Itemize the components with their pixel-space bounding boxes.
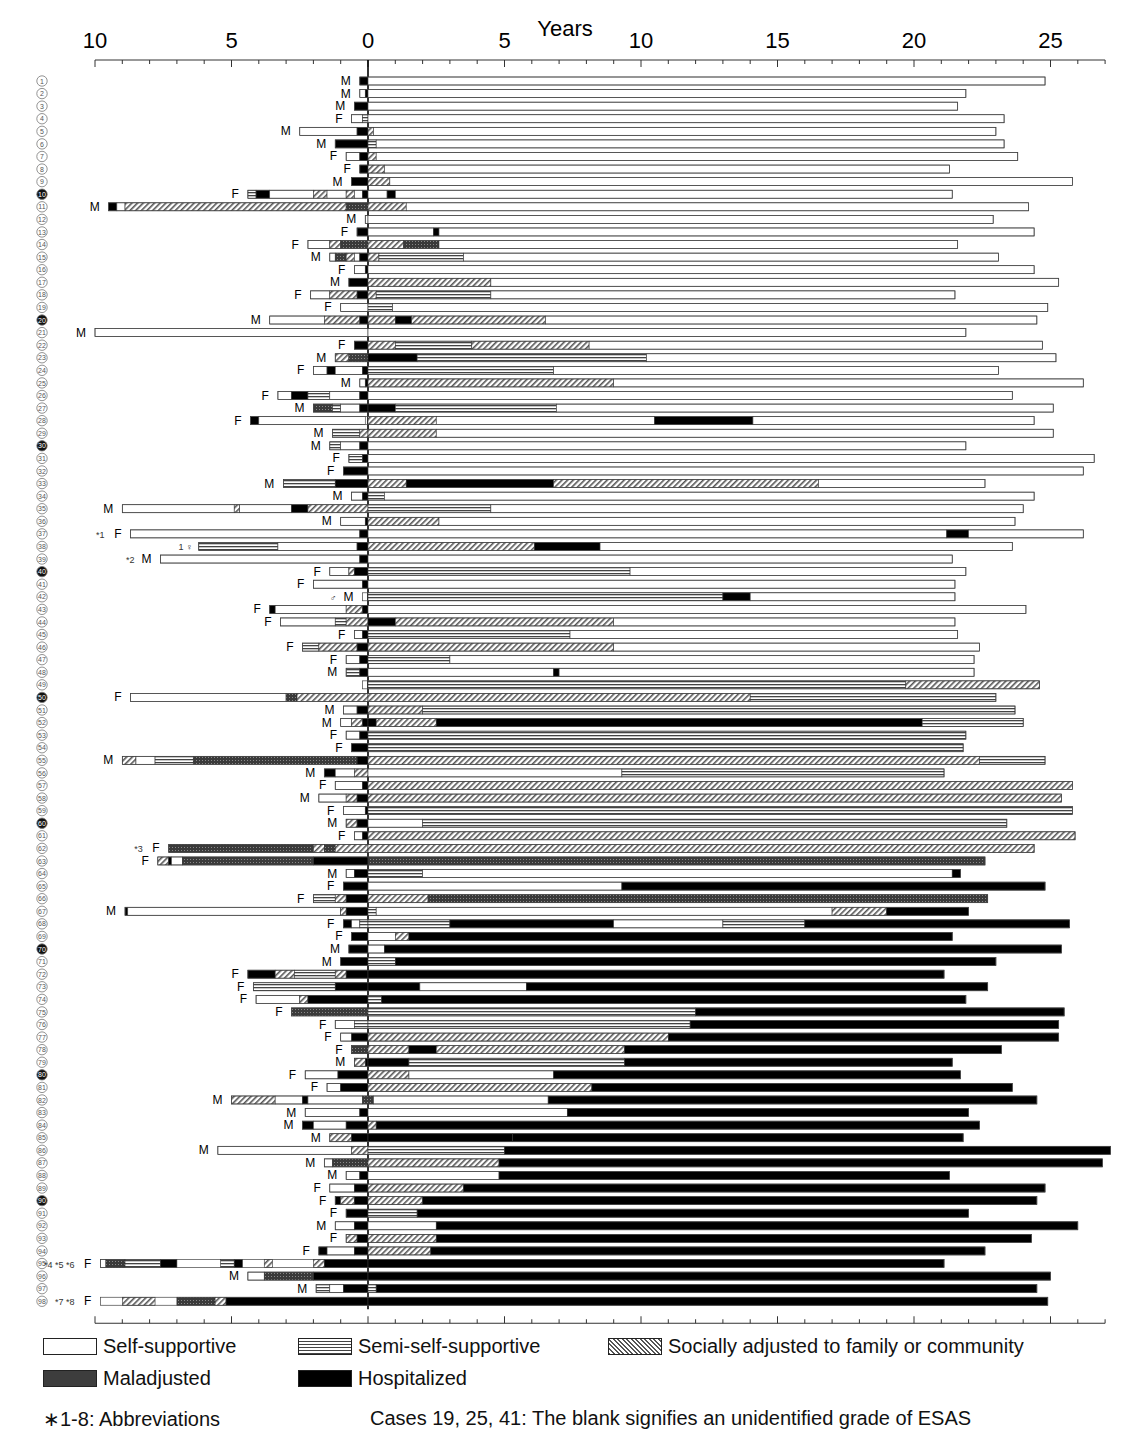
segment-S: [368, 454, 1094, 462]
case-row: 26F: [37, 389, 1012, 403]
segment-A: [308, 505, 368, 513]
segment-H: [554, 668, 559, 676]
case-number: 6: [40, 141, 44, 148]
segment-H: [360, 668, 368, 676]
sex-label: F: [330, 1231, 337, 1245]
case-row: 16F: [37, 263, 1034, 277]
segment-S: [122, 505, 234, 513]
case-row: 79M: [37, 1055, 952, 1069]
case-number: 41: [38, 581, 46, 588]
segment-S: [305, 1109, 360, 1117]
segment-A: [368, 895, 428, 903]
segment-H: [409, 932, 952, 940]
sex-label: F: [335, 112, 342, 126]
segment-SS: [125, 1260, 160, 1268]
case-row: 92M: [37, 1219, 1078, 1233]
segment-SS: [368, 1285, 376, 1293]
case-annotation: ♂: [330, 593, 337, 603]
segment-H: [335, 480, 368, 488]
segment-M: [193, 756, 357, 764]
segment-H: [360, 442, 368, 450]
segment-H: [343, 882, 368, 890]
segment-A: [368, 643, 614, 651]
segment-H: [343, 1285, 368, 1293]
segment-S: [368, 1222, 436, 1230]
sex-label: F: [330, 149, 337, 163]
segment-SS: [368, 366, 554, 374]
segment-S: [368, 530, 947, 538]
case-number: 86: [38, 1147, 46, 1154]
segment-A: [368, 1033, 668, 1041]
case-number: 84: [38, 1122, 46, 1129]
segment-S: [818, 480, 985, 488]
segment-A: [275, 970, 294, 978]
legend-label: Socially adjusted to family or community: [668, 1335, 1024, 1357]
segment-H: [226, 1297, 368, 1305]
segment-A: [368, 203, 406, 211]
segment-S: [368, 668, 554, 676]
case-number: 25: [38, 380, 46, 387]
segment-S: [352, 492, 363, 500]
segment-S: [330, 1285, 344, 1293]
segment-S: [750, 593, 955, 601]
segment-A: [330, 241, 341, 249]
segment-SS: [368, 1146, 505, 1154]
case-number: 39: [38, 556, 46, 563]
segment-S: [390, 178, 1073, 186]
sex-label: M: [251, 313, 261, 327]
sex-label: M: [281, 124, 291, 138]
segment-H: [526, 983, 987, 991]
segment-A: [368, 1159, 499, 1167]
segment-H: [354, 1184, 368, 1192]
segment-A: [368, 1234, 436, 1242]
segment-S: [559, 668, 974, 676]
segment-S: [439, 228, 1034, 236]
case-number: 23: [38, 354, 46, 361]
case-row: 44F: [37, 615, 955, 629]
segment-A: [349, 568, 354, 576]
segment-H: [161, 1260, 177, 1268]
segment-S: [439, 517, 1015, 525]
segment-S: [130, 693, 286, 701]
segment-S: [368, 882, 622, 890]
case-row: 29M: [37, 426, 1053, 440]
case-annotation: *7 *8: [55, 1297, 75, 1307]
segment-M: [349, 354, 368, 362]
sex-label: F: [341, 225, 348, 239]
case-row: 53F: [37, 728, 966, 742]
case-number: 81: [38, 1084, 46, 1091]
segment-M: [169, 844, 314, 852]
case-row: 4F: [37, 112, 1004, 126]
case-row: 3M: [37, 99, 958, 113]
case-annotation: *1: [96, 530, 105, 540]
segment-H: [352, 178, 368, 186]
segment-S: [354, 253, 359, 261]
segment-A: [300, 995, 308, 1003]
sex-label: M: [316, 137, 326, 151]
case-number: 83: [38, 1109, 46, 1116]
segment-H: [354, 1247, 368, 1255]
case-number: 77: [38, 1034, 46, 1041]
case-number: 47: [38, 656, 46, 663]
segment-A: [368, 127, 373, 135]
segment-S: [327, 1083, 341, 1091]
segment-S: [346, 1171, 360, 1179]
segment-M: [292, 1008, 368, 1016]
sex-label: F: [297, 577, 304, 591]
segment-A: [335, 895, 346, 903]
segment-H: [409, 1046, 436, 1054]
case-row: 72F: [37, 967, 944, 981]
segment-S: [354, 190, 362, 198]
segment-SS: [330, 442, 341, 450]
segment-S: [368, 442, 966, 450]
case-number: 27: [38, 405, 46, 412]
segment-S: [346, 870, 354, 878]
sex-label: F: [240, 992, 247, 1006]
segment-S: [600, 542, 1012, 550]
case-row: 45F: [37, 628, 958, 642]
segment-A: [354, 1058, 365, 1066]
sex-label: F: [141, 854, 148, 868]
sex-label: F: [338, 628, 345, 642]
case-number: 78: [38, 1046, 46, 1053]
segment-A: [335, 354, 349, 362]
